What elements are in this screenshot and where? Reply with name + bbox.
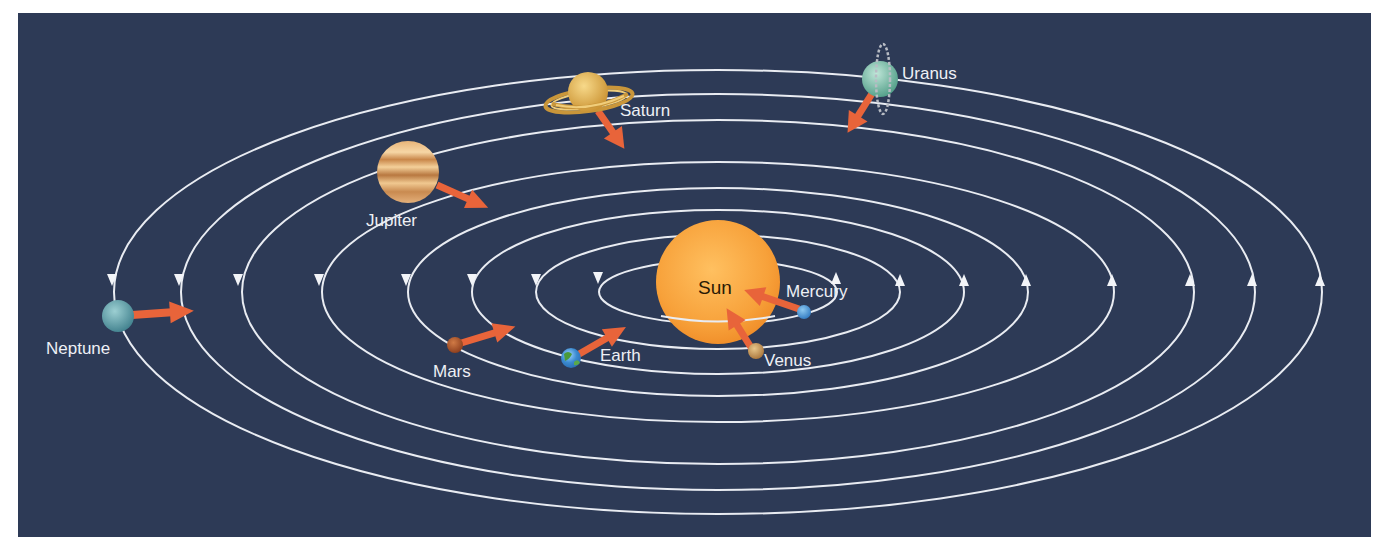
neptune-icon — [102, 300, 134, 332]
mars-label: Mars — [433, 362, 471, 381]
venus-label: Venus — [764, 351, 811, 370]
mercury-icon — [797, 305, 811, 319]
earth-label: Earth — [600, 346, 641, 365]
sun-label: Sun — [698, 277, 732, 298]
solar-system-diagram: Sun — [0, 0, 1380, 550]
earth-icon — [561, 348, 581, 368]
neptune-label: Neptune — [46, 339, 110, 358]
jupiter-label: Jupiter — [366, 211, 417, 230]
mercury-label: Mercury — [786, 282, 848, 301]
uranus-label: Uranus — [902, 64, 957, 83]
saturn-label: Saturn — [620, 101, 670, 120]
venus-icon — [748, 343, 764, 359]
sun: Sun — [656, 220, 780, 344]
jupiter-icon — [377, 141, 439, 203]
mars-icon — [447, 337, 463, 353]
